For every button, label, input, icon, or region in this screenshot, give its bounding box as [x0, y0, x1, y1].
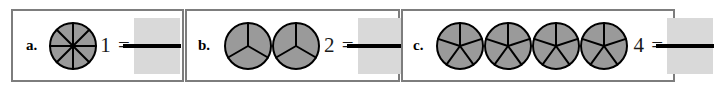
fraction-circle-group-b: [223, 21, 321, 71]
fraction-circle-icon: [531, 21, 581, 71]
fraction-circle-icon: [579, 21, 629, 71]
fraction-circle-icon: [271, 21, 321, 71]
problem-label-c: c.: [413, 38, 423, 53]
problem-panel-a: a. 1 =: [11, 9, 184, 82]
fraction-circle-icon: [435, 21, 485, 71]
answer-fraction-blank-a[interactable]: [134, 18, 180, 74]
fraction-circle-group-a: [48, 21, 98, 71]
problem-label-a: a.: [26, 38, 37, 53]
problem-panel-b: b. 2 =: [185, 9, 400, 82]
answer-fraction-blank-c[interactable]: [667, 18, 713, 74]
fraction-bar: [347, 44, 405, 48]
problem-label-b: b.: [198, 38, 210, 53]
problem-panel-c: c.: [401, 9, 675, 82]
fraction-circle-icon: [483, 21, 533, 71]
fraction-bar: [656, 44, 714, 48]
fraction-circle-group-c: [435, 21, 629, 71]
answer-fraction-blank-b[interactable]: [358, 18, 404, 74]
fraction-bar: [123, 44, 181, 48]
fraction-circle-icon: [223, 21, 273, 71]
fraction-circle-icon: [48, 21, 98, 71]
